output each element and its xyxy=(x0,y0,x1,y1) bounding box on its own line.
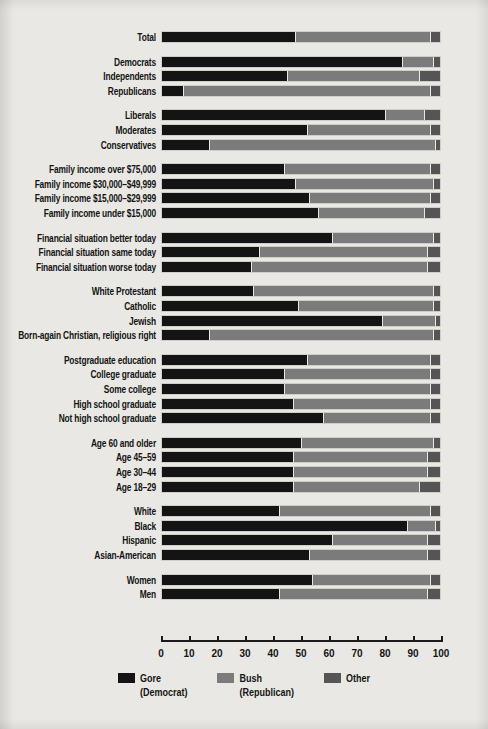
legend-label: Bush(Republican) xyxy=(239,672,294,700)
legend-label-main: Other xyxy=(346,672,370,684)
legend-item-bush: Bush(Republican) xyxy=(217,672,294,712)
legend-item-gore: Gore(Democrat) xyxy=(118,672,188,712)
bar-segment-gore xyxy=(161,588,279,600)
legend-item-other: Other xyxy=(324,672,370,712)
axis-tick xyxy=(357,636,359,642)
bar-segment-other xyxy=(433,232,441,244)
bar-segment-other xyxy=(427,466,441,478)
bar-segment-other xyxy=(430,398,441,410)
row-label: Republicans xyxy=(0,82,156,99)
bar-segment-gore xyxy=(161,412,323,424)
stacked-bar xyxy=(161,466,441,478)
bar-segment-other xyxy=(427,534,441,546)
stacked-bar xyxy=(161,398,441,410)
bar-segment-other xyxy=(430,124,441,136)
bar-segment-other xyxy=(433,285,441,297)
bar-segment-gore xyxy=(161,139,209,151)
chart-row: Moderates xyxy=(0,123,488,137)
bar-segment-gore xyxy=(161,383,284,395)
bar-segment-bush xyxy=(284,163,430,175)
row-label: Age 18–29 xyxy=(0,478,156,495)
axis-tick xyxy=(245,636,247,642)
chart-page: TotalDemocratsIndependentsRepublicansLib… xyxy=(0,0,488,729)
stacked-bar xyxy=(161,574,441,586)
chart-row: Financial situation worse today xyxy=(0,260,488,274)
stacked-bar xyxy=(161,207,441,219)
chart-row: White Protestant xyxy=(0,284,488,298)
bar-segment-other xyxy=(427,549,441,561)
chart-row: Age 18–29 xyxy=(0,480,488,494)
bar-segment-gore xyxy=(161,398,293,410)
chart-row: Hispanic xyxy=(0,533,488,547)
axis-tick xyxy=(189,636,191,642)
bar-segment-bush xyxy=(293,398,430,410)
bar-segment-other xyxy=(433,329,441,341)
stacked-bar xyxy=(161,315,441,327)
bar-segment-other xyxy=(430,192,441,204)
stacked-bar xyxy=(161,31,441,43)
legend-label-main: Bush xyxy=(239,672,262,684)
bar-segment-other xyxy=(427,451,441,463)
bar-segment-bush xyxy=(293,481,419,493)
bar-segment-gore xyxy=(161,178,295,190)
bar-segment-bush xyxy=(287,70,419,82)
stacked-bar xyxy=(161,232,441,244)
bar-segment-bush xyxy=(332,232,433,244)
bar-segment-gore xyxy=(161,163,284,175)
bar-segment-gore xyxy=(161,85,183,97)
chart-row: Family income $15,000–$29,999 xyxy=(0,191,488,205)
chart-legend: Gore(Democrat)Bush(Republican)Other xyxy=(0,672,488,712)
bar-segment-other xyxy=(430,31,441,43)
bar-segment-other xyxy=(419,70,441,82)
axis-tick xyxy=(385,636,387,642)
row-label: Conservatives xyxy=(0,136,156,153)
chart-row: Family income over $75,000 xyxy=(0,162,488,176)
stacked-bar xyxy=(161,588,441,600)
bar-segment-gore xyxy=(161,520,407,532)
bar-segment-gore xyxy=(161,56,402,68)
bar-segment-bush xyxy=(293,466,427,478)
bar-segment-other xyxy=(430,412,441,424)
bar-segment-gore xyxy=(161,246,259,258)
legend-swatch-other xyxy=(324,673,341,683)
bar-segment-gore xyxy=(161,285,253,297)
bar-segment-gore xyxy=(161,368,284,380)
bar-segment-gore xyxy=(161,261,251,273)
axis-tick-label: 10 xyxy=(174,646,204,659)
stacked-bar xyxy=(161,300,441,312)
bar-segment-bush xyxy=(385,109,424,121)
bar-segment-gore xyxy=(161,451,293,463)
bar-segment-other xyxy=(427,246,441,258)
bar-segment-bush xyxy=(253,285,432,297)
chart-row: Total xyxy=(0,30,488,44)
row-label: Financial situation worse today xyxy=(0,258,156,275)
bar-segment-bush xyxy=(307,124,430,136)
bar-segment-gore xyxy=(161,466,293,478)
bar-segment-other xyxy=(424,109,441,121)
row-label: Not high school graduate xyxy=(0,410,156,427)
bar-segment-other xyxy=(427,261,441,273)
chart-row: Conservatives xyxy=(0,138,488,152)
chart-row: Asian-American xyxy=(0,548,488,562)
axis-tick-label: 100 xyxy=(426,646,456,659)
axis-tick xyxy=(273,636,275,642)
bar-segment-bush xyxy=(312,574,430,586)
axis-tick-label: 20 xyxy=(202,646,232,659)
chart-row: Some college xyxy=(0,382,488,396)
bar-segment-gore xyxy=(161,207,318,219)
stacked-bar xyxy=(161,85,441,97)
axis-tick-label: 50 xyxy=(286,646,316,659)
bar-segment-other xyxy=(430,505,441,517)
bar-segment-other xyxy=(430,85,441,97)
legend-label-sub: (Democrat) xyxy=(140,686,188,700)
axis-tick-label: 0 xyxy=(146,646,176,659)
bar-segment-other xyxy=(433,437,441,449)
axis-tick-label: 30 xyxy=(230,646,260,659)
chart-row: Independents xyxy=(0,69,488,83)
axis-tick xyxy=(413,636,415,642)
stacked-bar xyxy=(161,505,441,517)
bar-segment-gore xyxy=(161,70,287,82)
legend-swatch-bush xyxy=(217,673,234,683)
bar-segment-other xyxy=(430,383,441,395)
axis-tick-label: 80 xyxy=(370,646,400,659)
